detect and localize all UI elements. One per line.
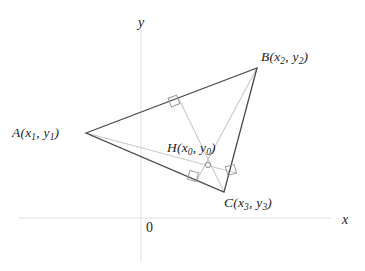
origin-label: 0 — [146, 221, 153, 235]
point-label-C: C(x3, y3) — [224, 196, 272, 210]
x-subscript-H: 0 — [188, 147, 193, 157]
right-angle-marks-group — [168, 95, 236, 181]
x-axis-label: x — [342, 213, 348, 227]
paren-close-A: ) — [55, 125, 60, 140]
comma-A: , y — [36, 125, 49, 140]
paren-close-B: ) — [304, 49, 309, 64]
y-axis-label: y — [138, 16, 144, 30]
altitudes-group — [86, 68, 257, 192]
y-subscript-A: 1 — [50, 132, 55, 142]
y-subscript-H: 0 — [206, 147, 211, 157]
point-label-A: A(x1, y1) — [12, 126, 59, 140]
comma-H: , y — [193, 140, 206, 155]
geometry-figure: A(x1, y1)B(x2, y2)C(x3, y3)H(x0, y0)yx0 — [0, 0, 365, 271]
paren-close-C: ) — [267, 195, 272, 210]
paren-open-H: (x — [177, 140, 188, 155]
triangle-ABC — [86, 68, 257, 192]
y-subscript-B: 2 — [299, 56, 304, 66]
point-markers-group — [205, 162, 210, 167]
comma-C: , y — [249, 195, 262, 210]
point-letter-C: C — [224, 195, 233, 210]
paren-open-B: (x — [269, 49, 280, 64]
point-letter-H: H — [167, 140, 177, 155]
paren-close-H: ) — [211, 140, 216, 155]
x-subscript-B: 2 — [280, 56, 285, 66]
point-marker-H — [205, 162, 210, 167]
paren-open-A: (x — [20, 125, 31, 140]
x-subscript-C: 3 — [244, 202, 249, 212]
triangle-group — [86, 68, 257, 192]
x-subscript-A: 1 — [31, 132, 36, 142]
right-angle-on-AC — [187, 170, 198, 181]
y-subscript-C: 3 — [262, 202, 267, 212]
point-label-B: B(x2, y2) — [261, 50, 308, 64]
comma-B: , y — [285, 49, 298, 64]
paren-open-C: (x — [233, 195, 244, 210]
point-label-H: H(x0, y0) — [167, 141, 216, 155]
